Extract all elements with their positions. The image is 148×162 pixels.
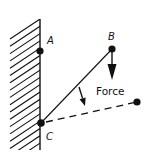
force-label: Force	[96, 85, 124, 97]
dashed-position-line	[46, 102, 137, 122]
rotation-arrow	[79, 87, 86, 106]
force-diagram: A B C Force	[0, 0, 148, 162]
arrowhead-icon	[108, 64, 117, 80]
point-c	[37, 119, 45, 127]
label-a: A	[46, 35, 54, 46]
label-b: B	[108, 31, 115, 42]
point-a	[36, 47, 43, 54]
point-d	[133, 98, 140, 105]
point-b	[108, 45, 115, 52]
label-c: C	[46, 131, 53, 142]
force-arrow	[108, 49, 117, 80]
wall-hatching	[10, 19, 40, 162]
arrowhead-icon	[80, 97, 86, 106]
